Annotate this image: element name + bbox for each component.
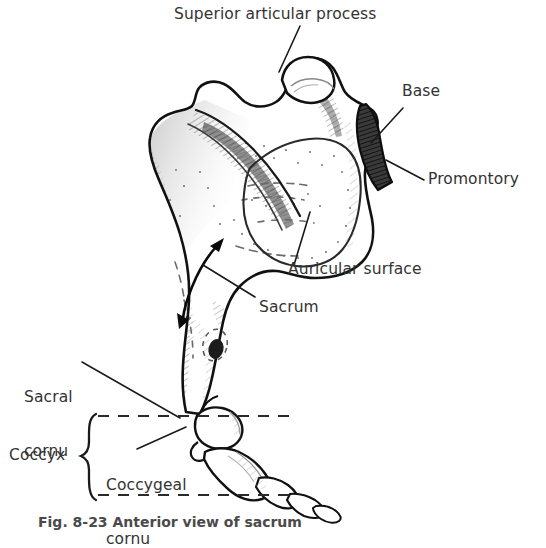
label-coccygeal-cornu-line1: Coccygeal [106,476,187,494]
label-coccygeal-cornu-line2: cornu [106,530,187,548]
label-sacrum: Sacrum [259,299,319,316]
label-promontory: Promontory [428,171,519,188]
label-sacral-cornu: Sacral cornu [24,352,73,496]
label-base: Base [402,83,440,100]
label-auricular-surface: Auricular surface [288,261,422,278]
figure-caption: Fig. 8-23 Anterior view of sacrum [38,514,302,530]
label-sacral-cornu-line1: Sacral [24,388,73,406]
label-superior-articular-process: Superior articular process [174,6,376,23]
coccyx-segments [191,407,341,522]
superior-articular-process-shape [282,57,334,103]
label-coccygeal-cornu: Coccygeal cornu [106,440,187,548]
leader-sacral-cornu [82,362,180,418]
coccyx-bracket [81,414,96,500]
leader-promontory [386,160,424,180]
label-coccyx: Coccyx [9,447,65,464]
